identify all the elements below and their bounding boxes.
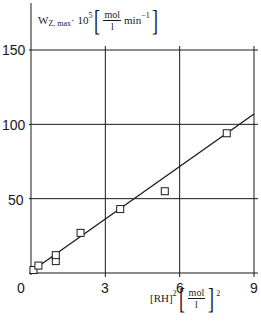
x-axis-label: [RH] 2 [ mol l ] 2 [150,283,220,313]
x-label-var: [RH] [150,292,173,304]
x-label-exp: 2 [173,289,177,298]
y-tick-150: 150 [2,42,25,58]
right-bracket: ] [152,5,158,35]
data-point [52,252,59,259]
y-label-fraction: mol l [103,9,121,32]
x-tick-3: 3 [101,280,109,296]
y-label-unit: min [124,14,141,26]
y-tick-50: 50 [8,192,24,208]
y-tick-100: 100 [2,117,25,133]
x-tick-9: 9 [250,280,258,296]
y-label-unit-exp: −1 [141,11,150,20]
chart-plot [0,0,261,326]
data-point [223,130,230,137]
data-point [35,262,42,269]
x-label-outer-exp: 2 [216,289,220,298]
data-point [77,229,84,236]
y-label-exp: 5 [88,11,92,20]
data-point [161,188,168,195]
y-label-sub: Z, max [48,19,71,28]
data-point [117,206,124,213]
x-label-fraction: mol l [188,287,206,310]
y-label-var: W [38,14,48,26]
grid-lines [29,3,258,277]
y-axis-label: W Z, max · 10 5 [ mol l min −1 ] [38,5,160,35]
fit-line [31,114,254,272]
left-bracket: [ [179,283,185,313]
left-bracket: [ [94,5,100,35]
x-tick-0: 0 [17,280,25,296]
right-bracket: ] [208,283,214,313]
y-label-mult: · 10 [71,14,88,26]
